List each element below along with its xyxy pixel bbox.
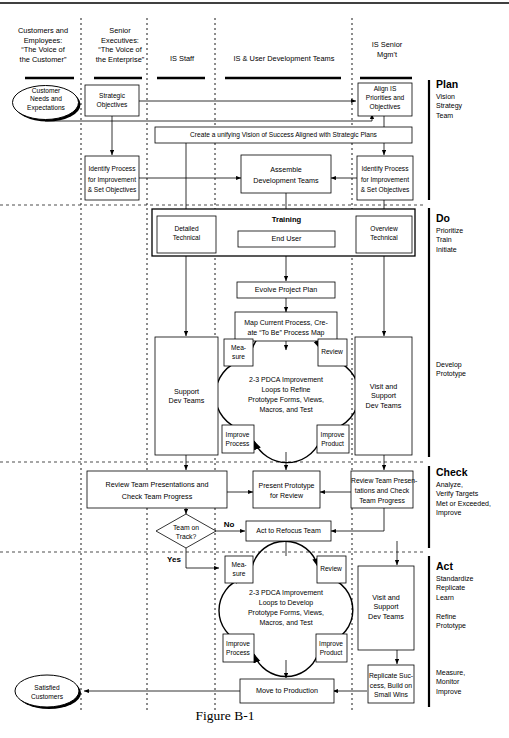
detailed-technical-label: Detailed Technical [158, 224, 215, 243]
pdca1-improve-process-label: Improve Process [222, 430, 253, 448]
pdca1-arc-product-process [254, 441, 320, 463]
phase-block-develop: Develop Prototype [436, 360, 508, 379]
pdca2-measure-label: Mea- sure [226, 561, 252, 578]
column-header-is-staff: IS Staff [150, 54, 214, 64]
replicate-success-label: Replicate Suc- cess, Build on Small Wins [368, 671, 414, 700]
phase-items-plan: Vision Strategy Team [436, 92, 508, 120]
pdca2-improve-process-label: Improve Process [223, 639, 253, 657]
end-user-label: End User [239, 235, 334, 243]
training-label: Training [238, 216, 335, 224]
column-header-senior-execs: Senior Executives: “The Voice of the Ent… [86, 26, 154, 64]
phase-block-measure: Measure, Monitor Improve [436, 668, 508, 696]
pdca1-measure-label: Mea- sure [225, 344, 252, 361]
phase-items-act: Standardize Replicate Learn [436, 574, 508, 602]
phase-items-check: Analyze, Verify Targets Met or Exceeded,… [436, 480, 508, 518]
evolve-project-plan-label: Evolve Project Plan [238, 286, 334, 294]
pdca1-improve-product-label: Improve Product [317, 430, 348, 448]
pdca2-improve-product-label: Improve Product [316, 639, 346, 657]
customer-needs-label: Customer Needs and Expectations [15, 87, 77, 112]
phase-block-refine: Refine Prototype [436, 612, 508, 631]
phase-items-measure: Measure, Monitor Improve [436, 668, 508, 696]
review-team-left-label: Review Team Presentations and Check Team… [88, 479, 226, 503]
edge-decision-yes [186, 548, 219, 568]
edge-label-yes: Yes [160, 556, 188, 564]
column-header-customers: Customers and Employees: “The Voice of t… [6, 26, 80, 64]
map-current-process-label: Map Current Process, Cre- ate “To Be” Pr… [236, 318, 336, 337]
align-is-label: Align IS Priorities and Objectives [359, 85, 411, 111]
visit-support-dev-teams-1-label: Visit and Support Dev Teams [356, 382, 411, 410]
phase-items-refine: Refine Prototype [436, 612, 508, 631]
act-to-refocus-label: Act to Refocus Team [247, 527, 330, 535]
pdca1-review-label: Review [318, 348, 346, 356]
identify-process-left-label: Identify Process for Improvement & Set O… [84, 164, 140, 196]
edge-label-no: No [216, 521, 242, 529]
assemble-teams-label: Assemble Development Teams [242, 165, 330, 186]
phase-items-do: Prioritize Train Initiate [436, 226, 508, 254]
present-prototype-label: Present Prototype for Review [254, 481, 319, 500]
unifying-vision-label: Create a unifying Vision of Success Alig… [156, 131, 411, 139]
phase-title-check: Check [436, 466, 508, 478]
pdca1-center-label: 2-3 PDCA Improvement Loops to Refine Pro… [231, 375, 341, 415]
phase-block-plan: PlanVision Strategy Team [436, 78, 508, 120]
identify-process-right-label: Identify Process for Improvement & Set O… [356, 164, 414, 196]
phase-block-check: CheckAnalyze, Verify Targets Met or Exce… [436, 466, 508, 518]
edge-reviewright-to-refocus [331, 508, 384, 531]
pdca2-center-label: 2-3 PDCA Improvement Loops to Develop Pr… [231, 588, 341, 628]
phase-title-plan: Plan [436, 78, 508, 90]
support-dev-teams-label: Support Dev Teams [156, 387, 217, 406]
strategic-objectives-label: Strategic Objectives [86, 92, 138, 109]
figure-canvas: Customers and Employees: “The Voice of t… [0, 0, 509, 738]
move-to-production-label: Move to Production [241, 687, 333, 695]
phase-block-act: ActStandardize Replicate Learn [436, 560, 508, 602]
phase-block-do: DoPrioritize Train Initiate [436, 212, 508, 254]
column-header-dev-teams: IS & User Development Teams [216, 54, 352, 64]
figure-caption: Figure B-1 [165, 712, 285, 720]
column-header-is-senior-mgmt: IS Senior Mgm't [352, 40, 422, 59]
overview-technical-label: Overview Technical [357, 224, 411, 243]
satisfied-customers-label: Satisfied Customers [18, 683, 76, 702]
phase-items-develop: Develop Prototype [436, 360, 508, 379]
review-team-right-label: Review Team Presen- tations and Check Te… [351, 476, 413, 506]
pdca2-review-label: Review [317, 565, 345, 573]
team-on-track-label: Team on Track? [163, 523, 209, 542]
phase-title-do: Do [436, 212, 508, 224]
visit-support-dev-teams-2-label: Visit and Support Dev Teams [359, 593, 413, 621]
phase-title-act: Act [436, 560, 508, 572]
pdca2-arc-measure-review [252, 541, 318, 567]
